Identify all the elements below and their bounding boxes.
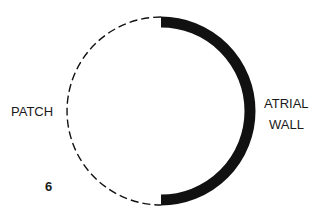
atrial-wall-label-line1: ATRIAL	[264, 96, 309, 111]
atrial-wall-label-line2: WALL	[269, 117, 304, 132]
patch-dashed-arc	[67, 17, 161, 205]
atrial-patch-diagram: PATCH ATRIAL WALL 6	[0, 0, 330, 217]
patch-label: PATCH	[11, 104, 53, 119]
figure-number: 6	[45, 179, 52, 194]
atrial-wall-arc	[161, 22, 250, 200]
